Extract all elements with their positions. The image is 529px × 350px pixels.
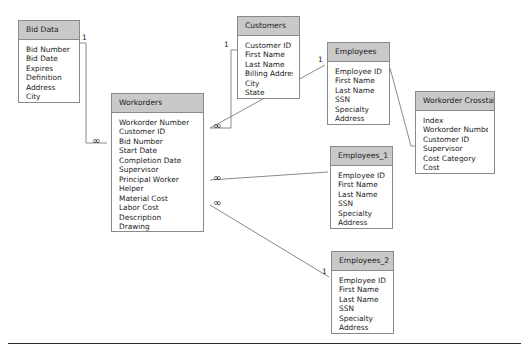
- entity-field: Completion Date: [119, 156, 197, 166]
- entity-field: Material Cost: [119, 194, 197, 204]
- entity-field-list-employees-1: Employee IDFirst NameLast NameSSNSpecial…: [331, 166, 392, 233]
- cardinality-workorders-emp1-many: ∞: [213, 173, 221, 183]
- relationship-customers-to-workorders: [210, 50, 237, 128]
- cardinality-workorders-customer-many: ∞: [213, 121, 221, 131]
- entity-workorders[interactable]: WorkordersWorkorder NumberCustomer IDBid…: [111, 93, 204, 232]
- entity-field: Address: [339, 323, 387, 333]
- entity-title-employees-1: Employees_1: [331, 147, 392, 166]
- entity-field: Last Name: [339, 295, 387, 305]
- entity-field: Drawing: [119, 222, 197, 232]
- cardinality-customers-one: 1: [224, 41, 229, 48]
- entity-field: City: [245, 79, 293, 89]
- entity-field: Customer ID: [119, 127, 197, 137]
- entity-field: Address: [338, 218, 386, 228]
- entity-field: Description: [119, 213, 197, 223]
- entity-field: Specialty: [338, 209, 386, 219]
- entity-field: Customer ID: [245, 41, 293, 51]
- entity-field: Employee ID: [339, 276, 387, 286]
- entity-field: SSN: [338, 199, 386, 209]
- entity-field: Start Date: [119, 146, 197, 156]
- cardinality-employees-one: 1: [318, 56, 323, 63]
- entity-field: Workorder Number: [423, 125, 488, 135]
- entity-workorder-crosstab[interactable]: Workorder CrosstabIndexWorkorder NumberC…: [415, 91, 495, 174]
- entity-field: Bid Number: [26, 45, 73, 55]
- entity-field: Index: [423, 116, 488, 126]
- entity-title-employees-2: Employees_2: [332, 252, 393, 271]
- entity-field: Supervisor: [423, 144, 488, 154]
- entity-field: Address: [335, 114, 383, 124]
- entity-field: SSN: [335, 95, 383, 105]
- relationship-bid-data-to-workorders: [80, 43, 107, 143]
- entity-field: Definition: [26, 73, 73, 83]
- entity-title-bid-data: Bid Data: [19, 21, 79, 40]
- entity-customers[interactable]: CustomersCustomer IDFirst NameLast NameB…: [237, 16, 300, 99]
- entity-field: Supervisor: [119, 165, 197, 175]
- entity-title-workorder-crosstab: Workorder Crosstab: [416, 92, 494, 111]
- cardinality-bid-data-one: 1: [82, 34, 87, 41]
- footer-rule: [8, 343, 521, 344]
- entity-field: Cost Category: [423, 154, 488, 164]
- cardinality-workorders-emp2-many: ∞: [213, 198, 221, 208]
- entity-field: Employee ID: [338, 171, 386, 181]
- entity-employees[interactable]: EmployeesEmployee IDFirst NameLast NameS…: [327, 42, 390, 125]
- entity-field: Employee ID: [335, 67, 383, 77]
- entity-field-list-bid-data: Bid NumberBid DateExpiresDefinitionAddre…: [19, 40, 79, 107]
- entity-field: Address: [26, 83, 73, 93]
- entity-field: First Name: [339, 285, 387, 295]
- entity-field-list-workorder-crosstab: IndexWorkorder NumberCustomer IDSupervis…: [416, 111, 494, 178]
- entity-field: Cost: [423, 163, 488, 173]
- entity-field: First Name: [335, 76, 383, 86]
- entity-field: First Name: [245, 50, 293, 60]
- entity-field: First Name: [338, 180, 386, 190]
- entity-field-list-employees-2: Employee IDFirst NameLast NameSSNSpecial…: [332, 271, 393, 338]
- entity-field-list-workorders: Workorder NumberCustomer IDBid NumberSta…: [112, 113, 203, 237]
- er-diagram-canvas: Bid DataBid NumberBid DateExpiresDefinit…: [0, 0, 529, 350]
- entity-bid-data[interactable]: Bid DataBid NumberBid DateExpiresDefinit…: [18, 20, 80, 103]
- entity-field: SSN: [339, 304, 387, 314]
- cardinality-employees-2-one: 1: [322, 268, 327, 275]
- entity-field: Workorder Number: [119, 118, 197, 128]
- entity-field: Last Name: [245, 60, 293, 70]
- relationship-employees-to-workorder-crosstab: [390, 68, 415, 146]
- entity-title-employees: Employees: [328, 43, 389, 62]
- entity-field: Specialty: [339, 314, 387, 324]
- entity-employees-1[interactable]: Employees_1Employee IDFirst NameLast Nam…: [330, 146, 393, 229]
- entity-field-list-customers: Customer IDFirst NameLast NameBilling Ad…: [238, 36, 299, 103]
- entity-field: Labor Cost: [119, 203, 197, 213]
- relationship-workorders-to-employees-2: [210, 205, 329, 277]
- entity-field: Helper: [119, 184, 197, 194]
- entity-title-workorders: Workorders: [112, 94, 203, 113]
- entity-field: State: [245, 88, 293, 98]
- entity-field-list-employees: Employee IDFirst NameLast NameSSNSpecial…: [328, 62, 389, 129]
- entity-field: Principal Worker: [119, 175, 197, 185]
- relationship-workorders-to-employees-1: [210, 172, 328, 180]
- cardinality-workorders-bid-many: ∞: [92, 136, 100, 146]
- entity-field: Expires: [26, 64, 73, 74]
- entity-employees-2[interactable]: Employees_2Employee IDFirst NameLast Nam…: [331, 251, 394, 334]
- entity-field: Last Name: [335, 86, 383, 96]
- entity-field: Bid Number: [119, 137, 197, 147]
- entity-field: Billing Address: [245, 69, 293, 79]
- entity-field: Last Name: [338, 190, 386, 200]
- entity-title-customers: Customers: [238, 17, 299, 36]
- entity-field: Specialty: [335, 105, 383, 115]
- entity-field: Bid Date: [26, 54, 73, 64]
- entity-field: Customer ID: [423, 135, 488, 145]
- entity-field: City: [26, 92, 73, 102]
